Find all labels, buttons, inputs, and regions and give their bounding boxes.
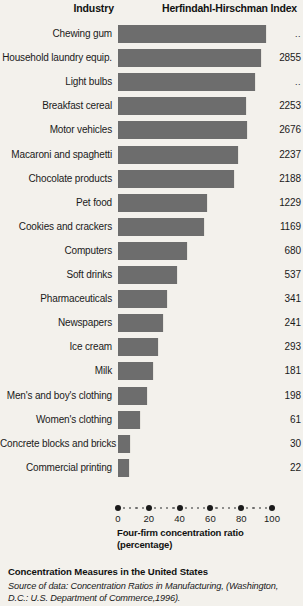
bar-track [118,242,272,260]
axis-minor-dot [154,507,156,509]
row-label: Light bulbs [0,70,112,94]
axis-title-line2: (percentage) [117,539,303,551]
bar [118,121,248,139]
bar [118,146,239,164]
row-label: Concrete blocks and bricks [0,432,112,456]
bar-track [118,290,272,308]
axis-ticks [118,505,274,512]
column-headers: Industry Herfindahl-Hirschman Index [0,2,303,18]
bar-track [118,387,272,405]
axis-tick-dot [207,505,213,511]
axis-title: Four-firm concentration ratio (percentag… [117,527,303,550]
row-label: Chocolate products [0,167,112,191]
axis-tick-dot [238,505,244,511]
bar-track [118,170,272,188]
bar [118,266,178,284]
chart-figure: Industry Herfindahl-Hirschman Index Chew… [0,0,303,606]
row-value-hhi: 2855 [272,46,301,70]
row-value-hhi: 181 [272,359,301,383]
header-industry: Industry [0,2,114,14]
bar-track [118,459,272,477]
row-value-hhi: 241 [272,311,301,335]
bar-track [118,121,272,139]
row-label: Soft drinks [0,263,112,287]
axis-tick-dot [177,505,183,511]
bar [118,338,159,356]
bar [118,362,154,380]
chart-row: Household laundry equip.2855 [0,46,303,70]
row-value-hhi: .. [272,70,301,94]
axis-minor-dot [191,507,193,509]
bar-track [118,411,272,429]
chart-row: Men's and boy's clothing198 [0,384,303,408]
bar [118,25,267,43]
chart-row: Concrete blocks and bricks30 [0,432,303,456]
chart-row: Ice cream293 [0,335,303,359]
row-label: Newspapers [0,311,112,335]
bar [118,194,208,212]
row-label: Pharmaceuticals [0,287,112,311]
axis-minor-dot [222,507,224,509]
row-label: Men's and boy's clothing [0,384,112,408]
axis-minor-dot [234,507,236,509]
axis-minor-dot [172,507,174,509]
bar [118,97,247,115]
axis-minor-dot [142,507,144,509]
axis-minor-dot [259,507,261,509]
bar-track [118,97,272,115]
axis-tick-dot [269,505,275,511]
bar [118,314,164,332]
chart-row: Breakfast cereal2253 [0,94,303,118]
bar [118,218,205,236]
bar [118,49,262,67]
row-value-hhi: 61 [272,408,301,432]
bar-track [118,25,272,43]
axis-minor-dot [252,507,254,509]
chart-row: Macaroni and spaghetti2237 [0,143,303,167]
figure-caption: Concentration Measures in the United Sta… [8,566,300,604]
row-label: Pet food [0,191,112,215]
plot-area: Chewing gum..Household laundry equip.285… [0,22,303,492]
row-value-hhi: .. [272,22,301,46]
row-label: Ice cream [0,335,112,359]
bar [118,290,168,308]
axis-minor-dot [197,507,199,509]
bar-track [118,314,272,332]
row-value-hhi: 680 [272,239,301,263]
row-value-hhi: 341 [272,287,301,311]
caption-title: Concentration Measures in the United Sta… [8,566,300,577]
axis-minor-dot [135,507,137,509]
chart-row: Soft drinks537 [0,263,303,287]
chart-row: Computers680 [0,239,303,263]
axis-minor-dot [123,507,125,509]
axis-tick-dot [115,505,121,511]
row-label: Commercial printing [0,456,112,480]
row-value-hhi: 1169 [272,215,301,239]
row-label: Macaroni and spaghetti [0,143,112,167]
row-value-hhi: 537 [272,263,301,287]
source-prefix: Source of data: [8,581,70,591]
bar-track [118,194,272,212]
axis-minor-dot [203,507,205,509]
bar-track [118,362,272,380]
axis-minor-dot [129,507,131,509]
axis-minor-dot [215,507,217,509]
row-value-hhi: 2253 [272,94,301,118]
row-value-hhi: 22 [272,456,301,480]
bar-track [118,146,272,164]
row-value-hhi: 30 [272,432,301,456]
bar [118,73,256,91]
axis-minor-dot [228,507,230,509]
axis-minor-dot [160,507,162,509]
row-value-hhi: 2676 [272,118,301,142]
row-value-hhi: 2188 [272,167,301,191]
row-label: Household laundry equip. [0,46,112,70]
x-axis: Four-firm concentration ratio (percentag… [0,500,303,546]
bar-track [118,435,272,453]
row-label: Chewing gum [0,22,112,46]
chart-row: Milk181 [0,359,303,383]
bar-track [118,73,272,91]
chart-row: Motor vehicles2676 [0,118,303,142]
chart-row: Light bulbs.. [0,70,303,94]
axis-title-line1: Four-firm concentration ratio [117,527,303,539]
